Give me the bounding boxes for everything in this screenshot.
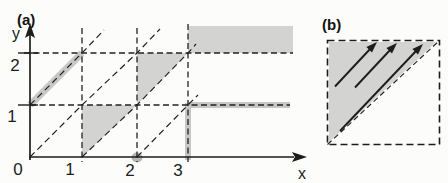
diagonal-upper	[30, 30, 104, 105]
panel-b-label: (b)	[322, 16, 341, 33]
y-axis	[25, 23, 35, 160]
x-tick-label-3: 3	[173, 161, 182, 180]
x-axis-label: x	[298, 165, 306, 182]
x-tick-label-2: 2	[125, 161, 134, 180]
x-tick-label-1: 1	[65, 160, 74, 179]
y-axis-label: y	[12, 25, 20, 42]
figure-svg: (a) y x 0 1 2 3 1 2 (b)	[0, 0, 448, 183]
y-tick-label-1: 1	[7, 107, 16, 126]
y-tick-label-2: 2	[10, 56, 19, 75]
x-axis-arrowhead	[292, 152, 307, 162]
top-shaded-band	[188, 26, 293, 53]
origin-label: 0	[13, 160, 22, 179]
panel-b: (b)	[322, 16, 440, 145]
figure: (a) y x 0 1 2 3 1 2 (b)	[0, 0, 448, 183]
panel-a: (a) y x 0 1 2 3 1 2	[7, 11, 307, 182]
